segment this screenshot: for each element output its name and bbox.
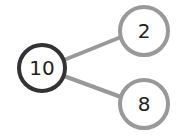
connector-top <box>64 37 121 60</box>
number-bond-diagram: 10 2 8 <box>0 0 179 136</box>
whole-label: 10 <box>29 56 54 80</box>
part-label-bottom: 8 <box>138 92 151 116</box>
part-node-top: 2 <box>120 7 168 55</box>
part-node-bottom: 8 <box>120 80 168 128</box>
whole-node: 10 <box>19 45 65 91</box>
part-label-top: 2 <box>138 19 151 43</box>
connector-bottom <box>64 76 121 97</box>
